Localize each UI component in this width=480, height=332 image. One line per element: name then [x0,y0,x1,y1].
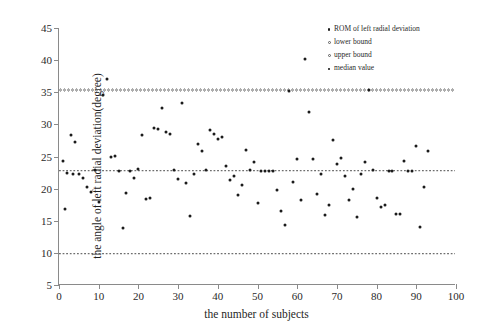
data-point [97,201,100,204]
y-tick-label: 20 [41,183,52,194]
y-tick [54,92,59,93]
data-point [343,175,346,178]
data-point [177,177,180,180]
data-point [320,172,323,175]
data-point [204,168,207,171]
chart-root: the angle of left radial deviation(degre… [0,0,480,332]
data-point [117,169,120,172]
legend-label: upper bound [334,51,372,59]
data-point [272,169,275,172]
data-point [407,169,410,172]
data-point [312,158,315,161]
chart-legend: ROM of left radial deviationlower boundu… [326,22,420,74]
data-point [411,169,414,172]
legend-marker-icon [326,51,332,59]
data-point [331,139,334,142]
data-point [220,136,223,139]
data-point [244,149,247,152]
data-point [181,101,184,104]
data-point [419,226,422,229]
data-point [105,77,108,80]
data-point [196,142,199,145]
data-point [367,89,370,92]
data-point [355,215,358,218]
data-point [288,89,291,92]
legend-label: ROM of left radial deviation [334,25,420,33]
data-point [69,133,72,136]
data-point [121,227,124,230]
data-point [391,170,394,173]
data-point [81,177,84,180]
data-point [145,197,148,200]
data-point [71,172,74,175]
data-point [89,190,92,193]
data-point [335,162,338,165]
y-tick-label: 25 [41,151,52,162]
data-point [383,204,386,207]
data-point [399,212,402,215]
data-point [216,137,219,140]
x-tick [178,284,179,289]
data-point [308,110,311,113]
legend-marker-icon [326,25,332,33]
x-tick-label: 100 [448,291,465,302]
data-point [363,160,366,163]
data-point [228,178,231,181]
data-point [113,154,116,157]
legend-label: median value [334,64,374,72]
y-tick [54,221,59,222]
x-tick-label: 70 [331,291,342,302]
x-tick-label: 0 [56,291,62,302]
data-point [395,212,398,215]
data-point [256,201,259,204]
x-tick [59,284,60,289]
data-point [347,199,350,202]
data-point [161,106,164,109]
x-tick-label: 90 [411,291,422,302]
data-point [280,210,283,213]
data-point [189,215,192,218]
y-tick [54,253,59,254]
data-point [403,159,406,162]
data-point [292,180,295,183]
y-tick-label: 30 [41,119,52,130]
data-point [208,128,211,131]
data-point [236,194,239,197]
y-tick [54,157,59,158]
x-tick [456,284,457,289]
data-point [212,133,215,136]
x-axis-title: the number of subjects [58,308,455,320]
x-tick [218,284,219,289]
data-point [129,169,132,172]
data-point [109,155,112,158]
data-point [157,127,160,130]
data-point [300,198,303,201]
data-point [359,173,362,176]
x-tick-label: 30 [173,291,184,302]
legend-item: upper bound [326,48,420,61]
data-point [252,161,255,164]
legend-item: median value [326,61,420,74]
data-point [77,172,80,175]
legend-marker-icon [326,38,332,46]
data-point [232,174,235,177]
x-tick-label: 40 [212,291,223,302]
x-tick [377,284,378,289]
y-tick [54,28,59,29]
data-point [304,58,307,61]
data-point [165,131,168,134]
legend-item: ROM of left radial deviation [326,22,420,35]
data-point [351,187,354,190]
data-point [415,145,418,148]
data-point [93,168,96,171]
data-point [268,169,271,172]
legend-label: lower bound [334,38,372,46]
data-point [327,204,330,207]
data-point [101,93,104,96]
x-tick-label: 10 [93,291,104,302]
data-point [192,172,195,175]
y-tick-label: 5 [47,280,53,291]
data-point [248,168,251,171]
data-point [141,134,144,137]
data-point [133,176,136,179]
